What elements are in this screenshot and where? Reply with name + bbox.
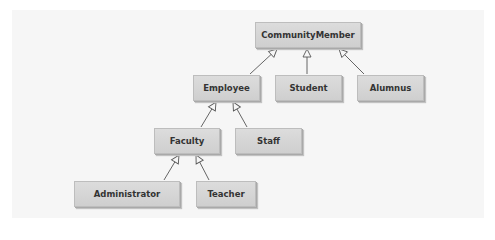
node-alumnus: Alumnus — [357, 75, 424, 101]
edge-teacher-faculty — [196, 155, 209, 180]
edge-alumnus-communitymember — [339, 49, 364, 74]
node-staff: Staff — [235, 128, 302, 154]
node-label: Staff — [257, 136, 280, 146]
edge-staff-employee — [233, 102, 247, 127]
node-label: CommunityMember — [261, 30, 355, 40]
node-label: Faculty — [170, 136, 205, 146]
edge-employee-communitymember — [250, 49, 277, 74]
node-student: Student — [275, 75, 342, 101]
edge-administrator-faculty — [164, 155, 179, 180]
node-label: Teacher — [207, 189, 244, 199]
node-label: Alumnus — [370, 83, 412, 93]
node-label: Administrator — [94, 189, 161, 199]
node-label: Employee — [203, 83, 250, 93]
node-administrator: Administrator — [74, 181, 180, 207]
node-communitymember: CommunityMember — [255, 22, 361, 48]
edge-faculty-employee — [201, 102, 216, 127]
node-faculty: Faculty — [154, 128, 220, 154]
node-teacher: Teacher — [196, 181, 256, 207]
node-employee: Employee — [193, 75, 260, 101]
node-label: Student — [289, 83, 327, 93]
